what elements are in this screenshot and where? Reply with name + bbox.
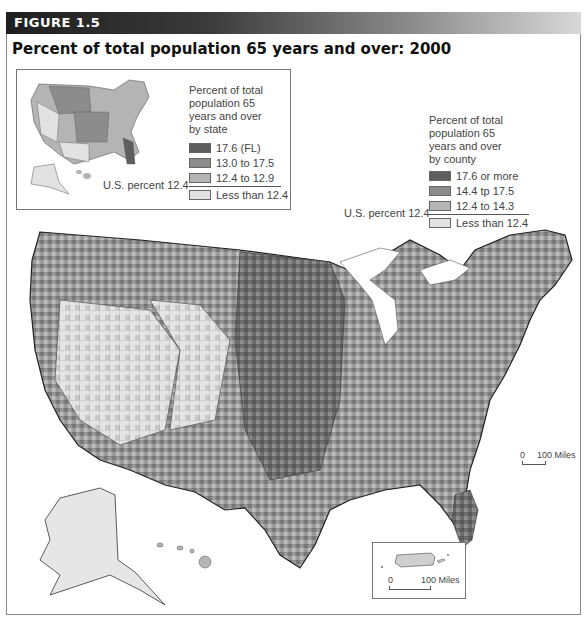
state-legend-title-line: Percent of total — [189, 84, 309, 97]
legend-label: 13.0 to 17.5 — [216, 157, 274, 169]
legend-label: 14.4 tp 17.5 — [456, 185, 514, 197]
county-legend-item: 17.6 or more — [429, 170, 518, 182]
legend-swatch — [429, 201, 451, 211]
legend-swatch — [429, 218, 451, 228]
state-legend-item: 17.6 (FL) — [189, 142, 261, 154]
pr-scale-label: 100 Miles — [421, 575, 460, 585]
us-percent-label: U.S. percent 12.4 — [103, 179, 189, 191]
county-legend-item: 12.4 to 14.3 — [429, 200, 514, 212]
legend-label: 12.4 to 14.3 — [456, 200, 514, 212]
pr-scale-bar — [389, 586, 431, 590]
county-legend-title-line: by county — [429, 153, 549, 166]
legend-swatch — [189, 158, 211, 168]
legend-swatch — [189, 190, 211, 200]
legend-swatch — [189, 173, 211, 183]
us-percent-divider — [429, 214, 529, 215]
puerto-rico-map — [373, 547, 465, 577]
scale-bar — [522, 461, 546, 465]
county-legend-title-line: years and over — [429, 140, 549, 153]
state-legend-item: 12.4 to 12.9 — [189, 172, 274, 184]
alaska — [40, 488, 165, 605]
legend-swatch — [189, 143, 211, 153]
legend-label: Less than 12.4 — [456, 217, 528, 229]
county-legend-item: 14.4 tp 17.5 — [429, 185, 514, 197]
county-legend-title-line: population 65 — [429, 127, 549, 140]
state-legend-title-line: by state — [189, 123, 309, 136]
state-legend-title-line: population 65 — [189, 97, 309, 110]
legend-swatch — [429, 171, 451, 181]
scale-zero: 0 — [520, 450, 525, 460]
hawaii — [157, 543, 211, 568]
state-legend-item: 13.0 to 17.5 — [189, 157, 274, 169]
state-legend-title-line: years and over — [189, 110, 309, 123]
scale-label: 100 Miles — [537, 450, 576, 460]
state-inset-map: Percent of total population 65 years and… — [16, 69, 291, 210]
county-legend-title: Percent of total population 65 years and… — [429, 114, 549, 166]
puerto-rico-inset: 0 100 Miles — [372, 542, 466, 599]
county-legend-item: Less than 12.4 — [429, 217, 528, 229]
state-legend-title: Percent of total population 65 years and… — [189, 84, 309, 136]
legend-swatch — [429, 186, 451, 196]
us-percent-label: U.S. percent 12.4 — [344, 207, 430, 219]
us-percent-divider — [189, 186, 281, 187]
state-legend-item: Less than 12.4 — [189, 189, 288, 201]
county-legend-title-line: Percent of total — [429, 114, 549, 127]
legend-label: 17.6 or more — [456, 170, 518, 182]
pr-scale-zero: 0 — [388, 575, 393, 585]
legend-label: 12.4 to 12.9 — [216, 172, 274, 184]
legend-label: Less than 12.4 — [216, 189, 288, 201]
legend-label: 17.6 (FL) — [216, 142, 261, 154]
